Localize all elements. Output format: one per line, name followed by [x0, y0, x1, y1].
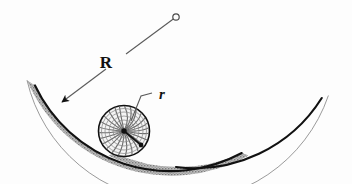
diagram-canvas: R: [0, 0, 352, 184]
bowl-inner-edge-right: [176, 98, 322, 168]
label-radius-r: r: [159, 86, 165, 102]
bowl-shell: [27, 80, 328, 184]
physics-diagram-figure: R: [0, 0, 352, 184]
label-radius-R: R: [100, 53, 113, 72]
disk-spoke-end-dot: [139, 143, 144, 148]
center-of-curvature-marker: [173, 14, 179, 20]
rolling-disk: [93, 104, 151, 157]
disk-center-dot: [121, 128, 126, 133]
radius-line-upper-segment: [126, 17, 176, 54]
radius-line-lower-segment: [62, 69, 106, 102]
